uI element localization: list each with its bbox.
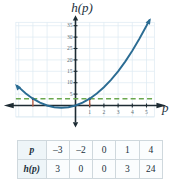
x-tick-label: 5: [143, 109, 151, 115]
y-tick-label: 20: [64, 57, 73, 63]
y-tick-label: 25: [64, 45, 73, 51]
table-cell: 24: [139, 160, 162, 179]
table-cell: 1: [116, 141, 139, 160]
table-cell: –3: [46, 141, 69, 160]
table-row: h(p)300324: [18, 160, 163, 179]
table-cell: 0: [69, 160, 92, 179]
table-cell: –2: [69, 141, 92, 160]
table-row: p–3–2014: [18, 141, 163, 160]
table-cell: 4: [139, 141, 162, 160]
y-tick-label: 10: [64, 79, 73, 85]
x-tick-label: 3: [114, 109, 122, 115]
y-tick-label: 35: [64, 22, 73, 28]
y-tick-label: 30: [64, 34, 73, 40]
table-cell: 3: [46, 160, 69, 179]
x-tick-label: 4: [128, 109, 136, 115]
table-cell: 0: [93, 141, 116, 160]
y-tick-label: 15: [64, 68, 73, 74]
y-tick-label: 5: [64, 91, 73, 97]
grid-lines: [16, 22, 154, 117]
figure-container: h(p) p 510152025303512345 p–3–2014h(p)30…: [0, 0, 178, 187]
table-body: p–3–2014h(p)300324: [18, 141, 163, 179]
value-table: p–3–2014h(p)300324: [17, 140, 163, 179]
table-row-header: p: [18, 141, 47, 160]
table-row-header: h(p): [18, 160, 47, 179]
x-tick-label: 1: [86, 109, 94, 115]
table-cell: 0: [93, 160, 116, 179]
x-tick-label: 2: [100, 109, 108, 115]
table-cell: 3: [116, 160, 139, 179]
